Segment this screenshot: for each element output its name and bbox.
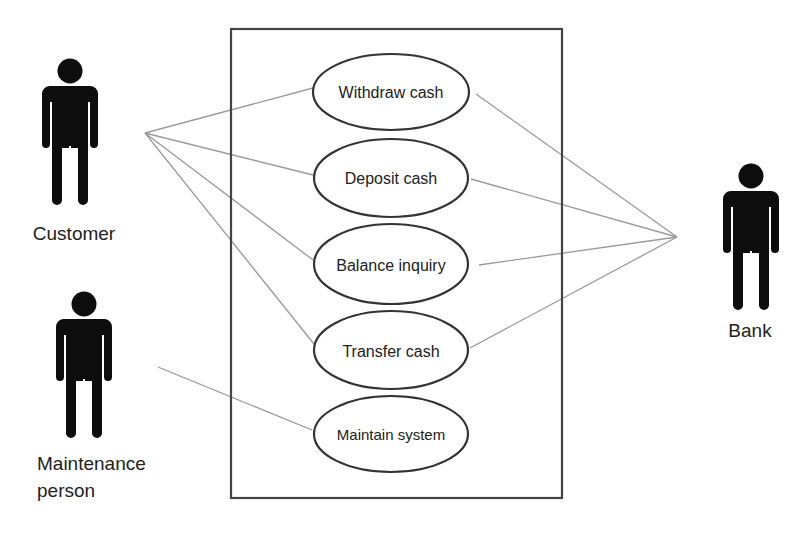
actor-label-line2: person <box>37 480 95 501</box>
use-case-balance-inquiry[interactable]: Balance inquiry <box>314 224 468 304</box>
use-case-label: Maintain system <box>337 426 445 443</box>
association-customer-balance <box>145 133 313 260</box>
use-case-withdraw-cash[interactable]: Withdraw cash <box>313 54 469 130</box>
person-icon <box>723 164 779 311</box>
use-case-deposit-cash[interactable]: Deposit cash <box>314 139 468 217</box>
association-bank-withdraw <box>476 94 677 237</box>
actor-customer[interactable]: Customer <box>33 59 116 245</box>
actor-maintenance-person[interactable]: Maintenance person <box>37 292 146 502</box>
use-case-label: Transfer cash <box>342 343 439 360</box>
use-case-maintain-system[interactable]: Maintain system <box>314 396 468 472</box>
association-maintenance-maintain <box>158 367 312 430</box>
use-case-label: Deposit cash <box>345 170 438 187</box>
use-case-label: Balance inquiry <box>336 257 445 274</box>
association-bank-deposit <box>471 179 677 237</box>
actor-bank[interactable]: Bank <box>723 164 779 342</box>
person-icon <box>56 292 112 439</box>
person-icon <box>42 59 98 206</box>
association-bank-balance <box>479 237 677 265</box>
actor-label: Customer <box>33 223 116 244</box>
actor-label: Bank <box>728 320 772 341</box>
use-case-transfer-cash[interactable]: Transfer cash <box>314 311 468 389</box>
actor-label-line1: Maintenance <box>37 453 146 474</box>
use-case-label: Withdraw cash <box>339 84 444 101</box>
association-customer-transfer <box>145 133 314 344</box>
association-customer-withdraw <box>145 88 313 133</box>
use-case-diagram: Withdraw cash Deposit cash Balance inqui… <box>0 0 802 534</box>
association-bank-transfer <box>470 237 677 348</box>
association-customer-deposit <box>145 133 313 175</box>
